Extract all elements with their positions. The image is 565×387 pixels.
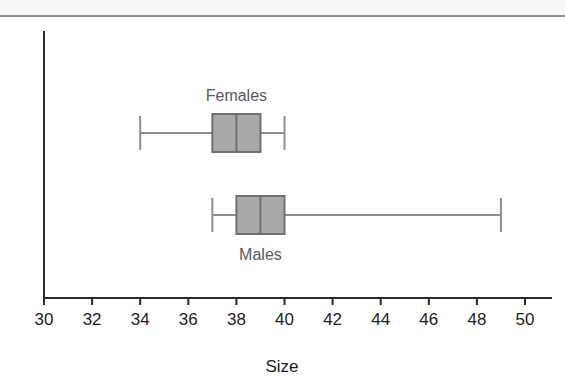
- x-tick-label-40: 40: [275, 310, 294, 329]
- box-plot-series: FemalesMales: [140, 87, 501, 263]
- x-tick-label-38: 38: [227, 310, 246, 329]
- top-band: [0, 0, 565, 15]
- x-axis-title: Size: [265, 357, 298, 376]
- x-axis-tick-labels: 3032343638404244464850: [35, 310, 535, 329]
- series-label-females: Females: [206, 87, 267, 104]
- figure-container: 3032343638404244464850 FemalesMales Size: [0, 0, 565, 387]
- x-tick-label-36: 36: [179, 310, 198, 329]
- x-tick-label-42: 42: [323, 310, 342, 329]
- x-tick-label-32: 32: [83, 310, 102, 329]
- box-plot-females: Females: [140, 87, 284, 152]
- axes: [44, 31, 552, 298]
- x-tick-label-46: 46: [419, 310, 438, 329]
- x-tick-label-30: 30: [35, 310, 54, 329]
- x-tick-label-34: 34: [131, 310, 150, 329]
- x-tick-label-44: 44: [371, 310, 390, 329]
- series-label-males: Males: [239, 246, 282, 263]
- x-tick-label-48: 48: [467, 310, 486, 329]
- x-tick-label-50: 50: [516, 310, 535, 329]
- box-plot-males: Males: [212, 196, 501, 263]
- x-axis-ticks: [44, 298, 525, 305]
- box-plot-svg: 3032343638404244464850 FemalesMales Size: [0, 17, 565, 387]
- plot-area: 3032343638404244464850 FemalesMales Size: [0, 17, 565, 387]
